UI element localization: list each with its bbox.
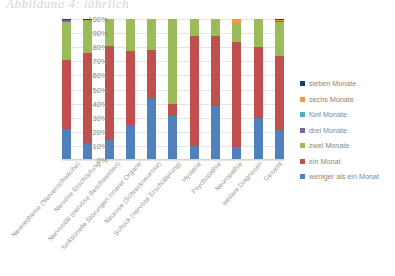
bar-segment[interactable] — [147, 19, 156, 50]
bar-segment[interactable] — [254, 47, 263, 118]
y-axis-tick-label: 50% — [48, 85, 108, 94]
legend-label: sechs Monate — [309, 95, 354, 104]
legend-label: sieben Monate — [309, 79, 356, 88]
legend-item[interactable]: sechs Monate — [300, 92, 392, 108]
legend-color-swatch — [300, 159, 305, 164]
legend-item[interactable]: ein Monat — [300, 154, 392, 170]
x-axis-labels: Neurasthenie (Nervenschwäche)Nervöse Ers… — [62, 160, 284, 276]
bar-segment[interactable] — [62, 22, 71, 60]
bar-column[interactable] — [190, 19, 199, 160]
bar-segment[interactable] — [126, 51, 135, 124]
bar-segment[interactable] — [190, 146, 199, 160]
legend-color-swatch — [300, 112, 305, 117]
legend-color-swatch — [300, 128, 305, 133]
bar-segment[interactable] — [168, 116, 177, 160]
legend-item[interactable]: weniger als ein Monat — [300, 169, 392, 185]
legend-color-swatch — [300, 81, 305, 86]
bar-column[interactable] — [147, 19, 156, 160]
bar-segment[interactable] — [190, 19, 199, 36]
bar-segment[interactable] — [275, 130, 284, 160]
y-axis-tick-label: 80% — [48, 43, 108, 52]
legend-color-swatch — [300, 174, 305, 179]
bar-segment[interactable] — [147, 98, 156, 160]
chart-legend: sieben Monatesechs Monatefünf Monatedrei… — [300, 76, 392, 185]
bar-segment[interactable] — [232, 42, 241, 148]
y-axis-tick-label: 100% — [48, 15, 108, 24]
legend-label: weniger als ein Monat — [309, 172, 379, 181]
bar-segment[interactable] — [147, 50, 156, 98]
bar-segment[interactable] — [168, 19, 177, 104]
bar-segment[interactable] — [211, 106, 220, 160]
bar-segment[interactable] — [190, 36, 199, 146]
legend-label: fünf Monate — [309, 110, 347, 119]
bar-segment[interactable] — [168, 104, 177, 117]
legend-item[interactable]: zwei Monate — [300, 138, 392, 154]
legend-item[interactable]: drei Monate — [300, 123, 392, 139]
y-axis-tick-label: 30% — [48, 113, 108, 122]
bar-segment[interactable] — [211, 36, 220, 107]
bar-column[interactable] — [211, 19, 220, 160]
bar-segment[interactable] — [275, 22, 284, 56]
legend-label: ein Monat — [309, 157, 341, 166]
bar-segment[interactable] — [211, 19, 220, 36]
legend-item[interactable]: fünf Monate — [300, 107, 392, 123]
y-axis-tick-label: 10% — [48, 141, 108, 150]
bar-segment[interactable] — [254, 118, 263, 160]
y-axis-tick-label: 60% — [48, 71, 108, 80]
bar-column[interactable] — [232, 19, 241, 160]
legend-item[interactable]: sieben Monate — [300, 76, 392, 92]
bar-column[interactable] — [168, 19, 177, 160]
legend-label: zwei Monate — [309, 141, 349, 150]
y-axis-tick-label: 20% — [48, 127, 108, 136]
y-axis-tick-label: 70% — [48, 57, 108, 66]
bar-segment[interactable] — [126, 19, 135, 51]
y-axis-tick-label: 40% — [48, 99, 108, 108]
bar-segment[interactable] — [126, 125, 135, 160]
legend-color-swatch — [300, 97, 305, 102]
legend-color-swatch — [300, 143, 305, 148]
bar-column[interactable] — [275, 19, 284, 160]
bar-segment[interactable] — [275, 56, 284, 131]
y-axis-tick-label: 90% — [48, 29, 108, 38]
bar-segment[interactable] — [254, 19, 263, 47]
legend-label: drei Monate — [309, 126, 347, 135]
bar-column[interactable] — [254, 19, 263, 160]
bar-column[interactable] — [126, 19, 135, 160]
chart-figure: 100%90%80%70%60%50%40%30%20%10%0% Neuras… — [0, 8, 395, 276]
bar-segment[interactable] — [232, 23, 241, 41]
